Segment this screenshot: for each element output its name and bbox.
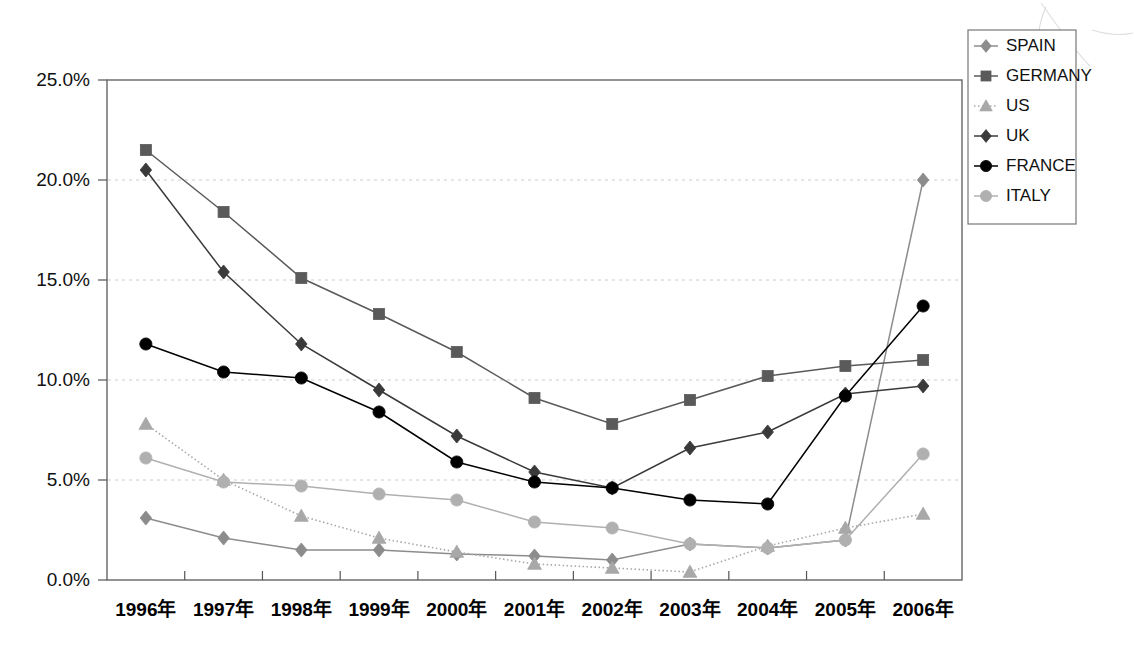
data-point-marker [296, 273, 307, 284]
legend-item-spain[interactable]: SPAIN [974, 36, 1056, 55]
data-point-marker [217, 476, 229, 488]
legend-item-label: UK [1006, 126, 1030, 145]
data-point-marker [684, 494, 696, 506]
data-point-marker [528, 516, 540, 528]
data-point-marker [295, 480, 307, 492]
line-chart: 0.0%5.0%10.0%15.0%20.0%25.0% 1996年1997年1… [0, 0, 1134, 650]
y-axis-labels: 0.0%5.0%10.0%15.0%20.0%25.0% [36, 69, 90, 590]
data-point-marker [980, 190, 991, 201]
chart-legend: SPAINGERMANYUSUKFRANCEITALY [968, 30, 1092, 224]
x-axis-tick-label: 1999年 [348, 598, 409, 620]
y-axis-tick-label: 10.0% [36, 369, 90, 390]
data-point-marker [140, 145, 151, 156]
data-point-marker [374, 309, 385, 320]
data-point-marker [451, 347, 462, 358]
data-point-marker [140, 338, 152, 350]
legend-item-label: GERMANY [1006, 66, 1092, 85]
x-axis-tick-label: 2002年 [582, 598, 643, 620]
data-point-marker [839, 534, 851, 546]
x-axis-tick-label: 1998年 [271, 598, 332, 620]
data-point-marker [606, 522, 618, 534]
data-point-marker [373, 488, 385, 500]
y-axis-ticks [98, 80, 107, 580]
y-axis-tick-label: 15.0% [36, 269, 90, 290]
data-point-marker [980, 160, 991, 171]
x-axis-tick-label: 2003年 [659, 598, 720, 620]
y-axis-tick-label: 20.0% [36, 169, 90, 190]
data-point-marker [140, 452, 152, 464]
x-axis-tick-label: 2000年 [426, 598, 487, 620]
data-point-marker [917, 448, 929, 460]
y-axis-tick-label: 25.0% [36, 69, 90, 90]
data-point-marker [684, 395, 695, 406]
data-point-marker [529, 393, 540, 404]
y-axis-tick-label: 5.0% [47, 469, 90, 490]
data-point-marker [839, 390, 851, 402]
data-point-marker [762, 542, 774, 554]
x-axis-tick-label: 2005年 [815, 598, 876, 620]
data-point-marker [451, 456, 463, 468]
y-axis-tick-label: 0.0% [47, 569, 90, 590]
data-point-marker [917, 300, 929, 312]
data-point-marker [218, 207, 229, 218]
legend-item-label: US [1006, 96, 1030, 115]
data-point-marker [762, 371, 773, 382]
data-point-marker [918, 355, 929, 366]
data-point-marker [451, 494, 463, 506]
plot-area-frame [107, 80, 962, 580]
legend-item-label: SPAIN [1006, 36, 1056, 55]
x-axis-tick-label: 1997年 [193, 598, 254, 620]
data-point-marker [606, 482, 618, 494]
data-point-marker [762, 498, 774, 510]
chart-canvas: 0.0%5.0%10.0%15.0%20.0%25.0% 1996年1997年1… [0, 0, 1134, 650]
data-point-marker [217, 366, 229, 378]
x-axis-tick-label: 2006年 [892, 598, 953, 620]
x-axis-tick-label: 2001年 [504, 598, 565, 620]
x-axis-tick-label: 2004年 [737, 598, 798, 620]
x-axis-labels: 1996年1997年1998年1999年2000年2001年2002年2003年… [115, 598, 954, 620]
data-point-marker [840, 361, 851, 372]
data-point-marker [684, 538, 696, 550]
legend-item-label: ITALY [1006, 186, 1051, 205]
data-point-marker [981, 71, 991, 81]
data-point-marker [295, 372, 307, 384]
legend-item-label: FRANCE [1006, 156, 1076, 175]
x-axis-tick-label: 1996年 [115, 598, 176, 620]
data-point-marker [528, 476, 540, 488]
data-point-marker [607, 419, 618, 430]
data-point-marker [373, 406, 385, 418]
